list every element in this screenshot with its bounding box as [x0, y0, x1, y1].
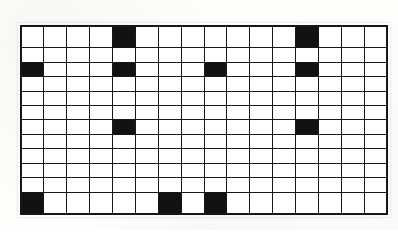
grid-cell-empty[interactable] — [135, 62, 158, 76]
grid-cell-empty[interactable] — [67, 149, 90, 163]
grid-cell-empty[interactable] — [21, 91, 44, 105]
grid-cell-empty[interactable] — [90, 192, 113, 214]
grid-cell-empty[interactable] — [44, 149, 67, 163]
grid-cell-empty[interactable] — [181, 77, 204, 91]
grid-cell-empty[interactable] — [364, 62, 387, 76]
grid-cell-empty[interactable] — [21, 149, 44, 163]
grid-cell-empty[interactable] — [44, 192, 67, 214]
grid-cell-empty[interactable] — [135, 134, 158, 148]
grid-cell-empty[interactable] — [273, 26, 296, 48]
grid-cell-empty[interactable] — [364, 48, 387, 62]
grid-cell-empty[interactable] — [90, 48, 113, 62]
grid-cell-empty[interactable] — [273, 178, 296, 192]
grid-cell-empty[interactable] — [273, 134, 296, 148]
grid-cell-empty[interactable] — [113, 77, 136, 91]
grid-cell-empty[interactable] — [364, 134, 387, 148]
grid-cell-filled[interactable] — [21, 62, 44, 76]
grid-cell-empty[interactable] — [158, 106, 181, 120]
grid-cell-empty[interactable] — [21, 106, 44, 120]
grid-cell-empty[interactable] — [364, 192, 387, 214]
grid-cell-empty[interactable] — [90, 91, 113, 105]
grid-cell-empty[interactable] — [21, 178, 44, 192]
grid-cell-empty[interactable] — [273, 62, 296, 76]
grid-cell-empty[interactable] — [113, 163, 136, 177]
grid-cell-empty[interactable] — [318, 134, 341, 148]
grid-cell-empty[interactable] — [273, 77, 296, 91]
grid-cell-empty[interactable] — [90, 163, 113, 177]
grid-cell-empty[interactable] — [341, 48, 364, 62]
grid-cell-empty[interactable] — [341, 106, 364, 120]
grid-cell-empty[interactable] — [341, 163, 364, 177]
grid-cell-empty[interactable] — [135, 149, 158, 163]
grid-cell-empty[interactable] — [44, 120, 67, 134]
grid-cell-empty[interactable] — [21, 48, 44, 62]
grid-cell-empty[interactable] — [273, 48, 296, 62]
grid-cell-empty[interactable] — [364, 163, 387, 177]
grid-cell-empty[interactable] — [318, 149, 341, 163]
grid-cell-empty[interactable] — [318, 192, 341, 214]
grid-cell-empty[interactable] — [135, 26, 158, 48]
grid-cell-empty[interactable] — [296, 91, 319, 105]
grid-cell-filled[interactable] — [21, 192, 44, 214]
grid-cell-empty[interactable] — [204, 77, 227, 91]
grid-cell-empty[interactable] — [364, 149, 387, 163]
grid-cell-empty[interactable] — [227, 77, 250, 91]
grid-cell-empty[interactable] — [181, 178, 204, 192]
grid-cell-empty[interactable] — [296, 178, 319, 192]
grid-cell-empty[interactable] — [135, 120, 158, 134]
grid-cell-empty[interactable] — [90, 62, 113, 76]
grid-cell-empty[interactable] — [158, 77, 181, 91]
grid-cell-empty[interactable] — [296, 163, 319, 177]
grid-cell-empty[interactable] — [135, 77, 158, 91]
grid-cell-empty[interactable] — [296, 192, 319, 214]
grid-cell-empty[interactable] — [318, 77, 341, 91]
grid-cell-empty[interactable] — [250, 192, 273, 214]
grid-cell-empty[interactable] — [250, 62, 273, 76]
grid-cell-empty[interactable] — [113, 91, 136, 105]
grid-cell-empty[interactable] — [227, 106, 250, 120]
grid-cell-empty[interactable] — [21, 26, 44, 48]
grid-cell-empty[interactable] — [158, 149, 181, 163]
grid-cell-empty[interactable] — [204, 149, 227, 163]
grid-cell-empty[interactable] — [250, 163, 273, 177]
grid-cell-filled[interactable] — [296, 26, 319, 48]
grid-cell-empty[interactable] — [341, 178, 364, 192]
grid-cell-empty[interactable] — [44, 178, 67, 192]
grid-cell-empty[interactable] — [318, 62, 341, 76]
grid-cell-empty[interactable] — [44, 77, 67, 91]
grid-cell-empty[interactable] — [227, 48, 250, 62]
grid-cell-empty[interactable] — [67, 106, 90, 120]
grid-cell-empty[interactable] — [273, 106, 296, 120]
grid-cell-empty[interactable] — [158, 91, 181, 105]
grid-cell-empty[interactable] — [21, 134, 44, 148]
grid-cell-empty[interactable] — [181, 106, 204, 120]
grid-cell-empty[interactable] — [44, 48, 67, 62]
grid-cell-empty[interactable] — [227, 62, 250, 76]
grid-cell-empty[interactable] — [204, 134, 227, 148]
grid-cell-empty[interactable] — [135, 192, 158, 214]
grid-cell-filled[interactable] — [113, 26, 136, 48]
grid-cell-empty[interactable] — [113, 106, 136, 120]
grid-cell-empty[interactable] — [113, 134, 136, 148]
grid-cell-empty[interactable] — [364, 77, 387, 91]
grid-cell-empty[interactable] — [67, 163, 90, 177]
grid-cell-empty[interactable] — [67, 26, 90, 48]
grid-cell-empty[interactable] — [341, 26, 364, 48]
grid-cell-empty[interactable] — [227, 163, 250, 177]
grid-cell-empty[interactable] — [341, 134, 364, 148]
grid-cell-filled[interactable] — [204, 62, 227, 76]
grid-cell-empty[interactable] — [296, 77, 319, 91]
grid-cell-empty[interactable] — [204, 178, 227, 192]
grid-cell-empty[interactable] — [250, 77, 273, 91]
grid-cell-empty[interactable] — [90, 26, 113, 48]
grid-cell-empty[interactable] — [44, 163, 67, 177]
grid-cell-empty[interactable] — [364, 178, 387, 192]
grid-cell-empty[interactable] — [204, 26, 227, 48]
grid-cell-empty[interactable] — [21, 163, 44, 177]
grid-cell-empty[interactable] — [181, 163, 204, 177]
grid-cell-empty[interactable] — [250, 120, 273, 134]
grid-cell-empty[interactable] — [227, 192, 250, 214]
grid-cell-empty[interactable] — [318, 91, 341, 105]
grid-cell-empty[interactable] — [181, 134, 204, 148]
grid-cell-empty[interactable] — [67, 120, 90, 134]
